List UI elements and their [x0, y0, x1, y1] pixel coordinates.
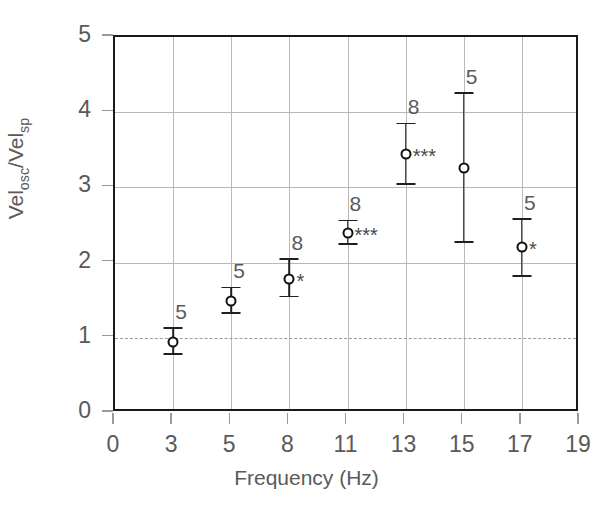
y-tick-label-2: 2 [61, 249, 91, 272]
sample-size-label-11hz: 8 [350, 193, 362, 214]
y-tick-label-4: 4 [61, 98, 91, 121]
x-tick-mark-19 [577, 413, 578, 424]
y-tick-mark-0 [102, 410, 113, 411]
y-tick-mark-2 [102, 260, 113, 261]
y-tick-mark-1 [102, 335, 113, 336]
x-tick-label-3: 3 [151, 433, 191, 456]
errorbar-cap-lower [280, 296, 299, 298]
errorbar-cap-lower [222, 312, 241, 314]
data-point-5hz[interactable] [226, 295, 237, 306]
errorbar-cap-upper [338, 220, 357, 222]
y-axis-title-text: Velosc/Velsp [4, 118, 27, 220]
y-tick-mark-5 [102, 34, 113, 35]
errorbar-cap-upper [512, 218, 531, 220]
x-tick-label-0: 0 [93, 433, 133, 456]
y-tick-label-0: 0 [61, 399, 91, 422]
x-tick-mark-3 [170, 413, 171, 424]
errorbar-cap-lower [512, 275, 531, 277]
y-axis-title: Velosc/Velsp [4, 89, 31, 249]
errorbar-cap-upper [222, 287, 241, 289]
sample-size-label-17hz: 5 [524, 192, 536, 213]
data-point-17hz[interactable] [516, 241, 527, 252]
sample-size-label-3hz: 5 [175, 301, 187, 322]
errorbar-cap-lower [454, 241, 473, 243]
x-tick-mark-13 [403, 413, 404, 424]
sample-size-label-8hz: 8 [291, 232, 303, 253]
significance-marker-8hz: * [296, 271, 304, 291]
sample-size-label-15hz: 5 [466, 66, 478, 87]
x-tick-mark-5 [229, 413, 230, 424]
y-tick-label-5: 5 [61, 23, 91, 46]
x-tick-mark-11 [345, 413, 346, 424]
data-point-15hz[interactable] [458, 162, 469, 173]
x-tick-label-15: 15 [442, 433, 482, 456]
x-tick-label-19: 19 [558, 433, 598, 456]
data-point-13hz[interactable] [400, 149, 411, 160]
data-point-8hz[interactable] [284, 274, 295, 285]
x-tick-mark-8 [287, 413, 288, 424]
errorbar-cap-lower [164, 353, 183, 355]
errorbar-cap-upper [396, 123, 415, 125]
x-tick-mark-17 [519, 413, 520, 424]
errorbar-cap-upper [280, 258, 299, 260]
x-tick-label-17: 17 [500, 433, 540, 456]
x-tick-label-8: 8 [267, 433, 307, 456]
y-tick-label-1: 1 [61, 324, 91, 347]
significance-marker-13hz: *** [413, 146, 436, 166]
x-tick-label-11: 11 [326, 433, 366, 456]
significance-marker-11hz: *** [355, 224, 378, 244]
x-tick-label-13: 13 [384, 433, 424, 456]
x-tick-label-5: 5 [209, 433, 249, 456]
y-tick-mark-4 [102, 110, 113, 111]
figure-scatter-velocity-ratio-vs-frequency: 012345 03581113151719 558*8***8***55* Fr… [0, 0, 613, 510]
data-point-11hz[interactable] [342, 227, 353, 238]
data-series-layer: 558*8***8***55* [115, 37, 576, 409]
errorbar-cap-upper [454, 92, 473, 94]
significance-marker-17hz: * [529, 238, 537, 258]
x-tick-mark-15 [461, 413, 462, 424]
y-tick-label-3: 3 [61, 173, 91, 196]
x-axis-title: Frequency (Hz) [0, 466, 613, 490]
data-point-3hz[interactable] [168, 336, 179, 347]
y-tick-mark-3 [102, 185, 113, 186]
sample-size-label-13hz: 8 [408, 96, 420, 117]
plot-area: 558*8***8***55* [113, 35, 578, 411]
errorbar-cap-lower [396, 183, 415, 185]
x-tick-mark-0 [112, 413, 113, 424]
errorbar-cap-upper [164, 327, 183, 329]
sample-size-label-5hz: 5 [233, 260, 245, 281]
